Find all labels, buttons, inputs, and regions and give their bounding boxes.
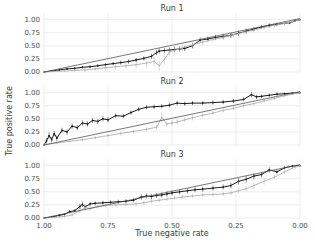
data-point	[212, 194, 213, 195]
data-point	[97, 121, 99, 123]
data-point	[146, 129, 147, 130]
panel-title-3: Run 3	[161, 150, 184, 159]
data-point	[53, 133, 55, 135]
chart-figure: 0.000.250.500.751.00Run 10.000.250.500.7…	[0, 0, 315, 242]
data-point	[284, 171, 285, 172]
data-point	[230, 185, 232, 187]
data-point	[169, 51, 170, 52]
data-point	[125, 204, 126, 205]
data-point	[233, 34, 234, 35]
data-point	[156, 52, 158, 54]
data-point	[222, 186, 224, 188]
data-point	[105, 67, 106, 68]
data-point	[194, 189, 196, 191]
x-tick-label: 1.00	[36, 222, 52, 230]
data-point	[161, 105, 163, 107]
panel-title-2: Run 2	[161, 77, 184, 86]
data-point	[161, 194, 163, 196]
y-tick-label: 0.00	[24, 68, 40, 76]
data-point	[182, 196, 183, 197]
data-point	[115, 204, 116, 205]
data-point	[128, 61, 130, 63]
data-point	[71, 125, 73, 127]
panel-2: 0.000.250.500.751.00Run 2	[24, 77, 300, 149]
data-point	[146, 106, 148, 108]
data-point	[110, 201, 112, 203]
data-point	[166, 193, 168, 195]
data-point	[274, 25, 275, 26]
data-point	[253, 175, 255, 177]
data-point	[66, 131, 68, 133]
data-point	[82, 122, 84, 124]
data-point	[261, 174, 263, 176]
data-point	[79, 206, 81, 208]
data-point	[97, 65, 99, 67]
data-point	[274, 176, 275, 177]
x-axis-label: True negative rate	[134, 229, 208, 238]
data-point	[212, 187, 214, 189]
y-tick-label: 0.75	[24, 175, 40, 183]
data-point	[133, 131, 134, 132]
data-point	[171, 122, 172, 123]
data-point	[135, 64, 136, 65]
data-point	[166, 198, 167, 199]
data-point	[46, 140, 48, 142]
panel-1: 0.000.250.500.751.00Run 1	[24, 4, 300, 76]
data-point	[123, 115, 125, 117]
data-point	[202, 102, 204, 104]
data-point	[263, 27, 264, 28]
data-point	[274, 98, 275, 99]
data-point	[71, 214, 72, 215]
panel-3: 0.000.250.500.751.001.000.750.500.250.00…	[24, 150, 307, 230]
data-point	[74, 70, 75, 71]
data-point	[176, 102, 178, 104]
data-point	[192, 195, 193, 196]
data-point	[292, 93, 293, 94]
data-point	[82, 139, 83, 140]
data-point	[94, 202, 96, 204]
data-point	[223, 193, 224, 194]
y-axis-label: True positive rate	[5, 86, 14, 157]
x-tick-label: 0.00	[292, 222, 308, 230]
y-tick-label: 1.00	[24, 89, 40, 97]
data-point	[222, 101, 224, 103]
data-point	[115, 115, 117, 117]
data-point	[276, 171, 278, 173]
data-point	[268, 169, 270, 171]
data-point	[115, 66, 116, 67]
y-tick-label: 0.25	[24, 128, 40, 136]
data-point	[233, 108, 234, 109]
data-point	[51, 139, 53, 141]
data-point	[230, 192, 231, 193]
data-point	[112, 63, 114, 65]
data-point	[176, 121, 177, 122]
data-point	[212, 102, 214, 104]
data-point	[215, 37, 217, 39]
data-point	[192, 117, 193, 118]
data-point	[223, 110, 224, 111]
data-point	[163, 50, 165, 52]
data-point	[64, 216, 65, 217]
data-point	[192, 102, 194, 104]
data-point	[92, 120, 94, 122]
data-point	[263, 181, 264, 182]
data-point	[268, 94, 270, 96]
data-point	[61, 129, 63, 131]
data-point	[76, 127, 78, 129]
data-point	[212, 112, 213, 113]
data-point	[184, 119, 185, 120]
data-point	[251, 94, 253, 96]
data-point	[84, 207, 85, 208]
data-point	[138, 109, 140, 111]
data-point	[253, 103, 254, 104]
data-point	[192, 44, 193, 45]
data-point	[151, 201, 152, 202]
y-tick-label: 1.00	[24, 16, 40, 24]
y-tick-label: 0.75	[24, 102, 40, 110]
data-point	[233, 100, 235, 102]
y-tick-label: 0.75	[24, 29, 40, 37]
data-point	[84, 69, 85, 70]
data-point	[174, 197, 175, 198]
data-point	[125, 65, 126, 66]
data-point	[253, 185, 254, 186]
